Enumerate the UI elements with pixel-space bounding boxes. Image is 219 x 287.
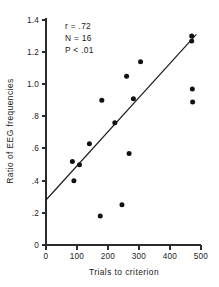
x-axis-title: Trials to criterion [89, 267, 159, 277]
annotation-sample-size: N = 16 [65, 33, 92, 43]
y-tick-label: .8 [32, 112, 39, 121]
data-point [87, 141, 92, 146]
y-tick-label: 1.0 [27, 80, 39, 89]
y-tick-label: .4 [32, 177, 39, 186]
x-tick-label: 100 [70, 252, 85, 261]
y-tick-label: 1.4 [27, 16, 39, 25]
data-point [70, 159, 75, 164]
regression-fit-line [46, 34, 196, 200]
x-tick-label: 200 [101, 252, 116, 261]
data-point [189, 38, 194, 43]
data-point [98, 214, 103, 219]
x-tick-label: 0 [44, 252, 49, 261]
y-tick-label: 0 [34, 241, 39, 250]
data-point [131, 96, 136, 101]
data-point [190, 87, 195, 92]
data-point [127, 151, 132, 156]
data-point [189, 34, 194, 39]
chart-svg: 1.4 1.2 1.0 .8 .6 .4 .2 0 0 100 200 300 … [0, 0, 219, 287]
y-axis-title: Ratio of EEG frequencies [5, 78, 15, 183]
data-point [77, 162, 82, 167]
data-point [112, 120, 117, 125]
x-tick-label: 300 [132, 252, 147, 261]
y-tick-label: .6 [32, 144, 39, 153]
data-point [99, 98, 104, 103]
data-point [119, 202, 124, 207]
annotation-correlation: r = .72 [65, 21, 91, 31]
statistics-annotation: r = .72 N = 16 P < .01 [65, 21, 94, 55]
x-axis-ticks [46, 245, 201, 250]
x-tick-label: 500 [194, 252, 209, 261]
data-point [138, 59, 143, 64]
y-tick-label: 1.2 [27, 48, 39, 57]
x-tick-label: 400 [163, 252, 178, 261]
scatter-plot-figure: 1.4 1.2 1.0 .8 .6 .4 .2 0 0 100 200 300 … [0, 0, 219, 287]
data-point [190, 99, 195, 104]
data-point [71, 178, 76, 183]
data-points-layer [70, 34, 195, 219]
y-axis-tick-labels: 1.4 1.2 1.0 .8 .6 .4 .2 0 [27, 16, 39, 250]
annotation-p-value: P < .01 [65, 45, 94, 55]
x-axis-tick-labels: 0 100 200 300 400 500 [44, 252, 209, 261]
y-axis-ticks [42, 20, 46, 245]
data-point [124, 74, 129, 79]
y-tick-label: .2 [32, 209, 39, 218]
